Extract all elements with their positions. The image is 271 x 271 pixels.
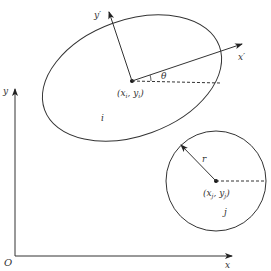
global-axes: O x y: [2, 86, 232, 270]
circle-j: r (xj, yj) j: [166, 131, 266, 231]
local-x-label: x′: [238, 52, 245, 62]
circle-name-label: j: [222, 207, 227, 217]
ellipse-circle-diagram: O x y θ x′ y′ (xi, yi) i r (xj, yj) j: [0, 0, 271, 271]
circle-center-label: (xj, yj): [203, 188, 230, 200]
angle-arc: [150, 75, 151, 81]
ellipse-i: θ x′ y′ (xi, yi) i: [25, 0, 245, 164]
angle-label: θ: [161, 71, 167, 81]
x-axis-label: x: [225, 260, 230, 270]
radius-arrow: [181, 145, 216, 181]
reference-dashed-line: [132, 81, 220, 83]
radius-label: r: [202, 154, 207, 164]
y-axis-label: y: [2, 86, 9, 96]
local-x-axis: [132, 44, 242, 81]
ellipse-name-label: i: [101, 113, 104, 123]
local-y-label: y′: [93, 10, 101, 20]
ellipse-center-label: (xi, yi): [117, 88, 144, 99]
origin-label: O: [4, 257, 12, 268]
local-y-axis: [109, 12, 132, 81]
